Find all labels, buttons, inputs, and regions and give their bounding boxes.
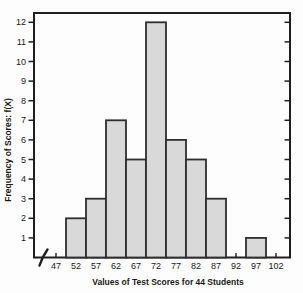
y-tick-label: 6 (21, 135, 26, 145)
y-tick-label: 12 (16, 17, 26, 27)
histogram-bar-57 (86, 199, 106, 258)
x-tick-label: 57 (91, 261, 101, 271)
x-tick-label: 72 (151, 261, 161, 271)
histogram-bar-67 (126, 160, 146, 258)
x-tick-label: 92 (231, 261, 241, 271)
y-tick-label: 5 (21, 155, 26, 165)
y-axis-title: Frequency of Scores: f(X) (3, 50, 17, 250)
x-tick-label: 102 (268, 261, 283, 271)
x-tick-label: 82 (191, 261, 201, 271)
y-tick-label: 3 (21, 194, 26, 204)
histogram-bar-52 (66, 218, 86, 257)
x-tick-label: 67 (131, 261, 141, 271)
y-tick-label: 1 (21, 233, 26, 243)
x-tick-label: 97 (251, 261, 261, 271)
histogram-bar-72 (146, 22, 166, 257)
x-tick-label: 47 (51, 261, 61, 271)
x-tick-label: 52 (71, 261, 81, 271)
x-tick-label: 77 (171, 261, 181, 271)
y-tick-label: 4 (21, 174, 26, 184)
x-axis-title: Values of Test Scores for 44 Students (36, 277, 300, 287)
y-tick-label: 9 (21, 76, 26, 86)
y-tick-label: 11 (17, 37, 26, 47)
y-tick-label: 10 (16, 57, 26, 67)
histogram-figure: 1234567891011124752576267727782879297102… (0, 0, 303, 293)
histogram-chart: 1234567891011124752576267727782879297102 (0, 0, 303, 293)
y-tick-label: 8 (21, 96, 26, 106)
x-tick-label: 87 (211, 261, 221, 271)
x-tick-label: 62 (111, 261, 121, 271)
histogram-bar-82 (186, 160, 206, 258)
y-tick-label: 2 (21, 213, 26, 223)
histogram-bar-77 (166, 140, 186, 258)
histogram-bar-62 (106, 120, 126, 257)
histogram-bar-87 (206, 199, 226, 258)
histogram-bar-97 (246, 238, 266, 258)
y-tick-label: 7 (21, 115, 26, 125)
